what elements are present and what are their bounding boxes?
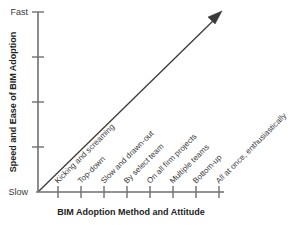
y-axis-low-label: Slow bbox=[8, 187, 28, 197]
chart-container: Fast Slow Speed and Ease of BIM Adoption… bbox=[0, 0, 303, 225]
y-axis-title: Speed and Ease of BIM Adoption bbox=[8, 32, 18, 173]
y-axis-high-label: Fast bbox=[10, 7, 28, 17]
x-axis-title: BIM Adoption Method and Attitude bbox=[57, 207, 204, 217]
chart-canvas: Fast Slow Speed and Ease of BIM Adoption… bbox=[0, 0, 303, 225]
x-category-label: All at once, enthusiastically bbox=[214, 111, 288, 185]
x-axis-category-labels: Kicking and screaming Top-down Slow and … bbox=[53, 111, 288, 185]
trend-arrow-head bbox=[208, 11, 222, 24]
